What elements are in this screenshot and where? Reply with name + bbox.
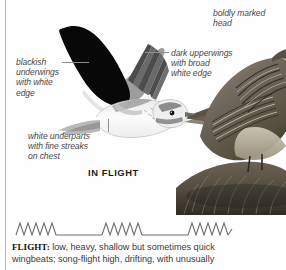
- flight-pattern-svg: [10, 217, 250, 241]
- lark-in-flight-illustration: [56, 26, 196, 138]
- annotation-boldly-marked-head: boldly marked head: [213, 8, 265, 28]
- plate-artwork: [0, 0, 286, 215]
- in-flight-label: IN FLIGHT: [88, 167, 139, 178]
- annotation-blackish-underwings: blackish underwings with white edge: [16, 57, 59, 98]
- field-guide-page: boldly marked head dark upperwings with …: [0, 0, 286, 270]
- leader-line-white-underparts: [108, 119, 109, 132]
- flight-pattern-diagram: [10, 217, 250, 241]
- annotation-white-underparts: white underparts with fine streaks on ch…: [28, 131, 90, 162]
- annotation-dark-upperwings: dark upperwings with broad white edge: [171, 48, 233, 79]
- flight-caption: FLIGHT: low, heavy, shallow but sometime…: [12, 241, 262, 266]
- illustration-plate: boldly marked head dark upperwings with …: [0, 0, 286, 215]
- caption-line-2: wingbeats; song-flight high, drifting, w…: [12, 254, 214, 264]
- caption-line-1: low, heavy, shallow but sometimes quick: [50, 242, 215, 252]
- leader-line-blackish-underwings: [62, 62, 89, 63]
- caption-heading: FLIGHT:: [12, 242, 50, 252]
- leader-line-dark-upperwings: [145, 52, 169, 53]
